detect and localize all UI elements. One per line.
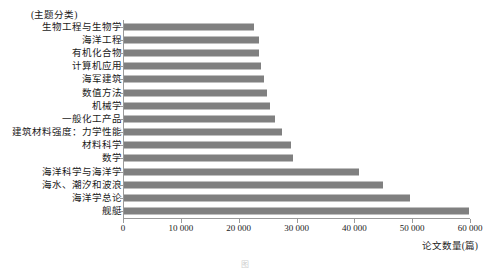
- bar-track: [124, 129, 282, 136]
- bar-row: 海洋学总论: [0, 191, 490, 204]
- bar: [124, 89, 267, 96]
- bar-track: [124, 181, 383, 188]
- bar-row: 一般化工产品: [0, 112, 490, 125]
- bar-category-label: 舰艇: [102, 206, 122, 216]
- bar-track: [124, 102, 270, 109]
- bar-category-label: 一般化工产品: [62, 114, 122, 124]
- bar: [124, 129, 282, 136]
- category-tick-mark: [120, 40, 123, 41]
- bar-row: 机械学: [0, 99, 490, 112]
- x-tick-label: 10 000: [168, 223, 193, 234]
- bar: [124, 168, 359, 175]
- bar: [124, 208, 469, 215]
- category-tick-mark: [120, 198, 123, 199]
- figure-caption: 图: [0, 260, 490, 269]
- bar-row: 计算机应用: [0, 60, 490, 73]
- bar-track: [124, 89, 267, 96]
- bar-category-label: 海洋科学与海洋学: [42, 167, 122, 177]
- bar-track: [124, 63, 261, 70]
- category-tick-mark: [120, 66, 123, 67]
- bar-track: [124, 23, 254, 30]
- bar-category-label: 海军建筑: [82, 74, 122, 84]
- bar-category-label: 数学: [102, 153, 122, 163]
- category-tick-mark: [120, 93, 123, 94]
- bar-track: [124, 168, 359, 175]
- bar-category-label: 有机化合物: [72, 48, 122, 58]
- bar-track: [124, 49, 259, 56]
- category-tick-mark: [120, 79, 123, 80]
- bar: [124, 155, 293, 162]
- bar-row: 海军建筑: [0, 73, 490, 86]
- bar: [124, 195, 410, 202]
- value-axis-title: 论文数量(篇): [422, 241, 478, 252]
- bar-category-label: 海洋学总论: [72, 193, 122, 203]
- category-tick-mark: [120, 53, 123, 54]
- bar-track: [124, 142, 291, 149]
- bar-category-label: 海水、潮汐和波浪: [42, 180, 122, 190]
- bar: [124, 102, 270, 109]
- bar-category-label: 数值方法: [82, 88, 122, 98]
- bar: [124, 142, 291, 149]
- bar-row: 生物工程与生物学: [0, 20, 490, 33]
- bar-track: [124, 208, 469, 215]
- category-tick-mark: [120, 145, 123, 146]
- bar-track: [124, 115, 275, 122]
- bar-track: [124, 195, 410, 202]
- bar: [124, 23, 254, 30]
- bar-row: 材料科学: [0, 139, 490, 152]
- x-tick-label: 50 000: [400, 223, 425, 234]
- category-tick-mark: [120, 106, 123, 107]
- category-tick-mark: [120, 185, 123, 186]
- category-tick-mark: [120, 27, 123, 28]
- bar: [124, 181, 383, 188]
- category-tick-mark: [120, 211, 123, 212]
- bar: [124, 115, 275, 122]
- bar-rows: 生物工程与生物学海洋工程有机化合物计算机应用海军建筑数值方法机械学一般化工产品建…: [0, 20, 490, 218]
- bar-row: 海洋科学与海洋学: [0, 165, 490, 178]
- bar-row: 有机化合物: [0, 46, 490, 59]
- bar-category-label: 建筑材料强度：力学性能: [12, 127, 122, 137]
- category-tick-mark: [120, 172, 123, 173]
- category-tick-mark: [120, 132, 123, 133]
- x-tick-label: 30 000: [284, 223, 309, 234]
- category-tick-mark: [120, 158, 123, 159]
- x-axis-ticks: 010 00020 00030 00040 00050 00060 000: [123, 219, 470, 235]
- bar-row: 舰艇: [0, 205, 490, 218]
- bar: [124, 36, 259, 43]
- x-tick-label: 60 000: [458, 223, 483, 234]
- bar: [124, 63, 261, 70]
- bar: [124, 76, 264, 83]
- bar-track: [124, 36, 259, 43]
- x-tick-label: 20 000: [226, 223, 251, 234]
- bar-category-label: 计算机应用: [72, 61, 122, 71]
- x-tick-label: 40 000: [342, 223, 367, 234]
- x-tick-label: 0: [121, 223, 126, 234]
- bar-track: [124, 155, 293, 162]
- bar-row: 数学: [0, 152, 490, 165]
- bar-category-label: 材料科学: [82, 140, 122, 150]
- bar-track: [124, 76, 264, 83]
- bar-category-label: 生物工程与生物学: [42, 22, 122, 32]
- bar-category-label: 海洋工程: [82, 35, 122, 45]
- bar-row: 建筑材料强度：力学性能: [0, 126, 490, 139]
- bar-row: 海洋工程: [0, 33, 490, 46]
- bar-row: 数值方法: [0, 86, 490, 99]
- bar: [124, 49, 259, 56]
- category-tick-mark: [120, 119, 123, 120]
- bar-row: 海水、潮汐和波浪: [0, 178, 490, 191]
- bar-category-label: 机械学: [92, 101, 122, 111]
